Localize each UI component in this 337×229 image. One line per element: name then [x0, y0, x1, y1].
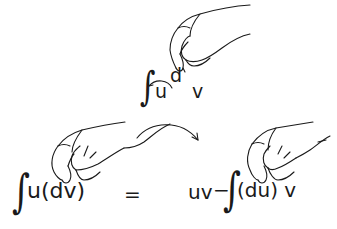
- right-hand-icon: [248, 122, 330, 183]
- top-u: u: [155, 82, 167, 101]
- top-integral-sign: ∫: [140, 66, 156, 106]
- rhs-uv: uv: [188, 182, 213, 202]
- equals-sign: =: [124, 184, 141, 204]
- illustration-canvas: ∫ u d v ∫ u(dv) = uv − ∫ (du) v: [0, 0, 337, 229]
- top-d: d: [170, 66, 182, 85]
- top-hand-icon: [170, 5, 250, 72]
- lhs-expression: u(dv): [27, 180, 85, 202]
- left-hand-icon: [52, 122, 170, 183]
- middle-curved-arrow-icon: [137, 125, 198, 140]
- top-v: v: [192, 82, 203, 101]
- rhs-expression: (du) v: [237, 180, 296, 200]
